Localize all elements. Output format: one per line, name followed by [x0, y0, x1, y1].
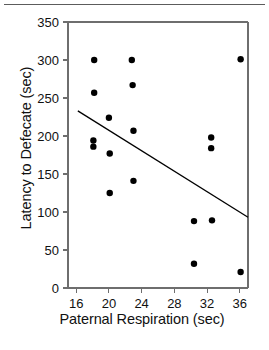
svg-text:32: 32 [200, 296, 214, 311]
svg-text:28: 28 [167, 296, 181, 311]
y-axis-ticks: 050100150200250300350 [37, 15, 68, 296]
svg-text:0: 0 [52, 281, 59, 296]
svg-text:250: 250 [37, 91, 59, 106]
scatter-plot: 050100150200250300350 162024283236 Laten… [0, 0, 269, 350]
svg-text:36: 36 [233, 296, 247, 311]
svg-text:300: 300 [37, 53, 59, 68]
svg-text:20: 20 [102, 296, 116, 311]
plot-svg: 050100150200250300350 162024283236 [0, 0, 269, 350]
svg-text:50: 50 [45, 243, 59, 258]
svg-text:16: 16 [69, 296, 83, 311]
svg-text:350: 350 [37, 15, 59, 30]
trendline [78, 111, 248, 217]
data-points [90, 56, 244, 275]
y-axis-label: Latency to Defecate (sec) [18, 48, 34, 248]
svg-text:100: 100 [37, 205, 59, 220]
x-axis-label: Paternal Respiration (sec) [22, 311, 262, 327]
x-axis-ticks: 162024283236 [69, 288, 247, 311]
figure-container: 050100150200250300350 162024283236 Laten… [0, 0, 269, 350]
svg-text:24: 24 [134, 296, 148, 311]
svg-text:200: 200 [37, 129, 59, 144]
svg-text:150: 150 [37, 167, 59, 182]
